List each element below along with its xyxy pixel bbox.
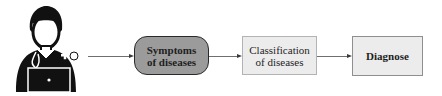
node-label: Symptoms of diseases (142, 44, 202, 68)
arrow-line-symptoms-to-classification (209, 56, 238, 57)
arrow-line-actor-to-symptoms (88, 56, 130, 57)
node-symptoms-of-diseases: Symptoms of diseases (134, 36, 209, 75)
node-label: Classification of diseases (244, 44, 316, 68)
node-label: Diagnose (366, 50, 409, 62)
arrow-line-classification-to-diagnose (317, 56, 348, 57)
node-diagnose: Diagnose (352, 36, 423, 76)
doctor-with-laptop-icon (6, 2, 86, 94)
node-classification-of-diseases: Classification of diseases (242, 36, 317, 75)
